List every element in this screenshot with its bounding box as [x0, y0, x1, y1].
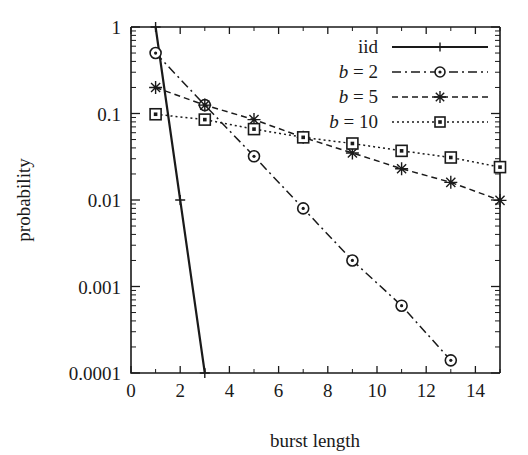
star-marker: [395, 162, 408, 175]
x-tick-label: 10: [368, 380, 387, 401]
square-marker: [495, 162, 506, 173]
square-marker: [199, 114, 210, 125]
square-marker: [435, 117, 445, 127]
x-tick-label: 2: [175, 380, 185, 401]
square-marker: [298, 132, 309, 143]
x-tick-label: 4: [225, 380, 235, 401]
square-marker: [396, 145, 407, 156]
star-marker: [149, 81, 162, 94]
y-axis-minor-ticks: [131, 31, 500, 347]
y-axis-ticks: [131, 27, 500, 373]
circle-marker: [347, 255, 358, 266]
data-series-layer: [149, 22, 506, 378]
plus-marker: [436, 43, 445, 52]
y-tick-label: 0.0001: [69, 363, 121, 384]
circle-marker: [150, 48, 161, 59]
star-marker: [444, 176, 457, 189]
axis-frame: [131, 27, 500, 373]
probability-vs-burst-length-chart: 02468101214 10.10.010.0010.0001 iidb = 2…: [0, 0, 528, 455]
star-marker: [494, 194, 507, 207]
y-tick-label: 0.001: [78, 277, 121, 298]
y-axis-tick-labels: 10.10.010.0010.0001: [69, 17, 121, 384]
figure-container: 02468101214 10.10.010.0010.0001 iidb = 2…: [0, 0, 528, 455]
x-axis-ticks: [131, 27, 500, 373]
legend-label-b-2: b = 2: [339, 61, 378, 82]
circle-marker: [396, 300, 407, 311]
square-marker: [249, 124, 260, 135]
legend: iidb = 2b = 5b = 10: [329, 36, 488, 132]
plus-marker: [151, 22, 161, 32]
star-marker: [434, 91, 446, 103]
plus-marker: [175, 195, 185, 205]
y-tick-label: 1: [112, 17, 122, 38]
series-markers: [150, 109, 505, 173]
x-tick-label: 6: [274, 380, 284, 401]
legend-label-iid: iid: [358, 36, 379, 57]
x-axis-tick-labels: 02468101214: [126, 380, 485, 401]
square-marker: [150, 109, 161, 120]
y-tick-label: 0.01: [88, 190, 121, 211]
circle-marker: [445, 355, 456, 366]
series-markers: [151, 22, 210, 378]
circle-marker: [249, 151, 260, 162]
y-axis-title: probability: [13, 158, 34, 242]
x-tick-label: 12: [417, 380, 436, 401]
x-tick-label: 0: [126, 380, 136, 401]
x-tick-label: 8: [323, 380, 333, 401]
x-tick-label: 14: [466, 380, 486, 401]
circle-marker: [298, 203, 309, 214]
y-tick-label: 0.1: [97, 104, 121, 125]
legend-label-b-10: b = 10: [329, 111, 378, 132]
x-axis-title: burst length: [270, 430, 361, 451]
square-marker: [347, 138, 358, 149]
series-iid: [151, 22, 210, 378]
legend-label-b-5: b = 5: [339, 86, 378, 107]
plot-frame: [131, 27, 500, 373]
series-b-10: [150, 109, 505, 173]
square-marker: [445, 152, 456, 163]
plus-marker: [200, 368, 210, 378]
circle-marker: [435, 67, 445, 77]
